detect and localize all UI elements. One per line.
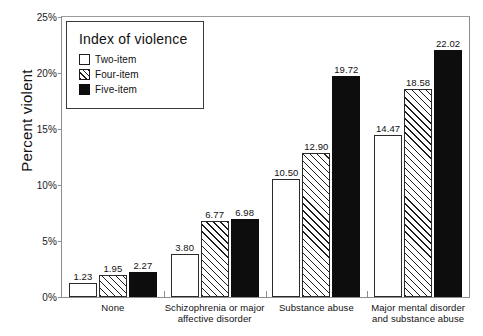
- bar-value-label: 3.80: [175, 242, 194, 253]
- y-axis-title: Percent violent: [18, 11, 35, 231]
- x-axis-category-label: Substance abuse: [266, 302, 368, 313]
- bar-four-item: 18.58: [404, 89, 432, 297]
- bar-five-item: 6.98: [231, 219, 259, 297]
- bar-value-label: 1.95: [103, 263, 122, 274]
- bar-value-label: 2.27: [133, 260, 152, 271]
- legend-item-five-item: Five-item: [79, 84, 193, 95]
- x-axis-group-separator: [266, 291, 267, 297]
- bar-four-item: 1.95: [99, 275, 127, 297]
- bar-value-label: 19.72: [334, 64, 358, 75]
- y-axis-tick-label: 10%: [37, 180, 57, 191]
- legend-label-five-item: Five-item: [95, 84, 137, 95]
- x-axis-category-label: Major mental disorderand substance abuse: [367, 302, 469, 324]
- y-axis-tick-mark: [58, 297, 62, 298]
- bar-two-item: 14.47: [374, 135, 402, 297]
- bar-value-label: 12.90: [304, 141, 328, 152]
- bar-value-label: 6.98: [235, 207, 254, 218]
- bar-value-label: 18.58: [406, 77, 430, 88]
- x-axis-category-label: Schizophrenia or majoraffective disorder: [164, 302, 266, 324]
- y-axis-tick-label: 0%: [42, 292, 57, 303]
- legend-item-two-item: Two-item: [79, 54, 193, 65]
- y-axis-tick-label: 15%: [37, 124, 57, 135]
- bar-five-item: 2.27: [129, 272, 157, 297]
- bar-value-label: 1.23: [73, 271, 92, 282]
- bar-four-item: 12.90: [302, 153, 330, 297]
- bar-two-item: 10.50: [272, 179, 300, 297]
- y-axis-tick-label: 25%: [37, 12, 57, 23]
- legend-swatch-four-item-icon: [79, 69, 90, 80]
- x-axis-group-separator: [367, 291, 368, 297]
- legend-swatch-five-item-icon: [79, 84, 90, 95]
- bar-value-label: 6.77: [205, 209, 224, 220]
- y-axis-tick-label: 20%: [37, 68, 57, 79]
- legend: Index of violence Two-item Four-item Fiv…: [66, 21, 204, 109]
- bar-four-item: 6.77: [201, 221, 229, 297]
- y-axis-tick-label: 5%: [42, 236, 57, 247]
- bar-value-label: 14.47: [376, 123, 400, 134]
- x-axis-group-separator: [164, 291, 165, 297]
- x-axis-category-label: None: [62, 302, 164, 313]
- bar-value-label: 22.02: [436, 38, 460, 49]
- bar-chart-figure: Percent violent 0%5%10%15%20%25%1.231.95…: [0, 0, 483, 336]
- bar-five-item: 22.02: [434, 50, 462, 297]
- legend-swatch-two-item-icon: [79, 54, 90, 65]
- bar-two-item: 1.23: [69, 283, 97, 297]
- bar-group: 14.4718.5822.02: [367, 17, 469, 297]
- bar-two-item: 3.80: [171, 254, 199, 297]
- bar-group: 10.5012.9019.72: [266, 17, 368, 297]
- bar-five-item: 19.72: [332, 76, 360, 297]
- bar-value-label: 10.50: [274, 167, 298, 178]
- legend-item-four-item: Four-item: [79, 69, 193, 80]
- legend-label-two-item: Two-item: [95, 54, 136, 65]
- legend-title: Index of violence: [79, 31, 193, 47]
- legend-label-four-item: Four-item: [95, 69, 139, 80]
